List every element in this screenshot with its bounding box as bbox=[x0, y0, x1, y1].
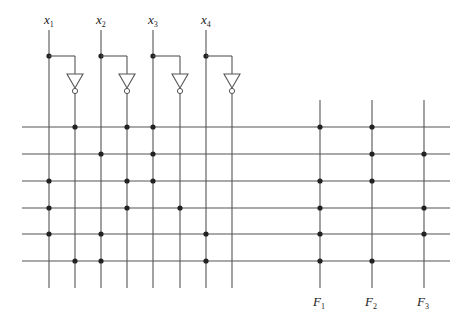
or-connection-dot bbox=[317, 205, 322, 210]
and-connection-dot bbox=[124, 178, 129, 183]
and-connection-dot bbox=[150, 178, 155, 183]
pla-circuit bbox=[0, 0, 471, 333]
and-connection-dot bbox=[124, 124, 129, 129]
inverter-icon bbox=[172, 74, 188, 88]
input-label: x3 bbox=[148, 13, 158, 29]
and-connection-dot bbox=[46, 178, 51, 183]
and-connection-dot bbox=[98, 258, 103, 263]
inverter-bubble-icon bbox=[229, 88, 234, 93]
output-label: F3 bbox=[417, 295, 429, 311]
or-connection-dot bbox=[421, 205, 426, 210]
or-connection-dot bbox=[317, 124, 322, 129]
or-connection-dot bbox=[421, 231, 426, 236]
and-connection-dot bbox=[203, 231, 208, 236]
or-connection-dot bbox=[369, 178, 374, 183]
inverter-bubble-icon bbox=[72, 88, 77, 93]
and-connection-dot bbox=[203, 258, 208, 263]
pla-diagram: x1x2x3x4F1F2F3 bbox=[0, 0, 471, 333]
or-connection-dot bbox=[317, 231, 322, 236]
and-connection-dot bbox=[98, 231, 103, 236]
output-label: F1 bbox=[313, 295, 325, 311]
inverter-bubble-icon bbox=[124, 88, 129, 93]
and-connection-dot bbox=[46, 231, 51, 236]
and-connection-dot bbox=[72, 258, 77, 263]
or-connection-dot bbox=[421, 151, 426, 156]
and-connection-dot bbox=[150, 124, 155, 129]
inverter-icon bbox=[67, 74, 83, 88]
and-connection-dot bbox=[150, 151, 155, 156]
and-connection-dot bbox=[177, 205, 182, 210]
input-label: x2 bbox=[96, 13, 106, 29]
and-connection-dot bbox=[72, 124, 77, 129]
inverter-icon bbox=[119, 74, 135, 88]
and-connection-dot bbox=[46, 205, 51, 210]
inverter-bubble-icon bbox=[177, 88, 182, 93]
or-connection-dot bbox=[369, 258, 374, 263]
and-connection-dot bbox=[98, 151, 103, 156]
or-connection-dot bbox=[369, 124, 374, 129]
or-connection-dot bbox=[317, 258, 322, 263]
and-connection-dot bbox=[124, 205, 129, 210]
or-connection-dot bbox=[369, 151, 374, 156]
input-label: x4 bbox=[201, 13, 211, 29]
input-label: x1 bbox=[44, 13, 54, 29]
inverter-icon bbox=[224, 74, 240, 88]
or-connection-dot bbox=[317, 178, 322, 183]
output-label: F2 bbox=[365, 295, 377, 311]
